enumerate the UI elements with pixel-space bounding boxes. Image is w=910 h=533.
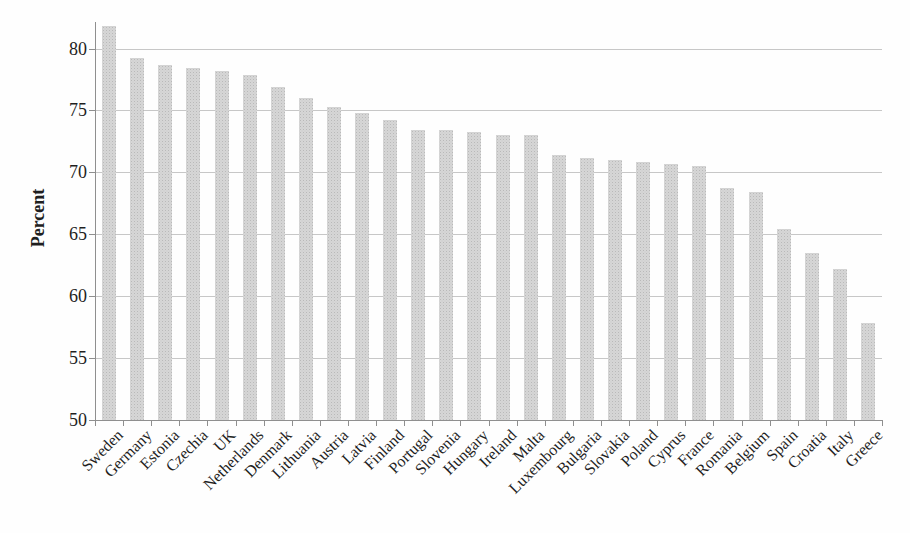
x-axis-tick xyxy=(629,421,630,426)
bar-malta xyxy=(524,135,538,420)
bar-france xyxy=(692,166,706,420)
x-axis-tick xyxy=(517,421,518,426)
bar-cyprus xyxy=(664,164,678,420)
bar-latvia xyxy=(355,113,369,420)
gridline-60 xyxy=(95,296,882,297)
bar-chart-figure: Percent 50556065707580SwedenGermanyEston… xyxy=(0,0,910,533)
x-axis-tick xyxy=(348,421,349,426)
x-axis-tick xyxy=(545,421,546,426)
x-axis-tick xyxy=(601,421,602,426)
bar-poland xyxy=(636,162,650,420)
y-axis-line xyxy=(95,22,96,421)
x-axis-tick xyxy=(882,421,883,426)
y-axis-title: Percent xyxy=(28,189,49,248)
y-tick-label-60: 60 xyxy=(47,286,87,306)
bar-ireland xyxy=(496,135,510,420)
x-axis-tick xyxy=(460,421,461,426)
bar-austria xyxy=(327,107,341,420)
x-axis-tick xyxy=(264,421,265,426)
bar-croatia xyxy=(805,253,819,420)
gridline-75 xyxy=(95,110,882,111)
x-axis-tick xyxy=(123,421,124,426)
gridline-55 xyxy=(95,358,882,359)
x-axis-tick xyxy=(573,421,574,426)
gridline-70 xyxy=(95,172,882,173)
bar-portugal xyxy=(411,130,425,420)
bar-spain xyxy=(777,229,791,420)
bar-finland xyxy=(383,120,397,420)
x-axis-tick xyxy=(207,421,208,426)
x-axis-tick xyxy=(151,421,152,426)
y-tick-label-65: 65 xyxy=(47,224,87,244)
x-axis-tick xyxy=(95,421,96,426)
x-axis-tick xyxy=(854,421,855,426)
bar-romania xyxy=(720,188,734,420)
x-axis-tick xyxy=(798,421,799,426)
x-axis-tick xyxy=(320,421,321,426)
bar-uk xyxy=(215,71,229,420)
x-axis-tick xyxy=(376,421,377,426)
x-axis-tick xyxy=(236,421,237,426)
x-axis-tick xyxy=(685,421,686,426)
y-tick-label-80: 80 xyxy=(47,39,87,59)
bar-belgium xyxy=(749,192,763,420)
gridline-80 xyxy=(95,49,882,50)
y-tick-label-55: 55 xyxy=(47,348,87,368)
x-axis-tick xyxy=(292,421,293,426)
x-axis-tick xyxy=(489,421,490,426)
bar-bulgaria xyxy=(580,158,594,421)
bar-denmark xyxy=(271,87,285,420)
bar-slovakia xyxy=(608,160,622,420)
bar-sweden xyxy=(102,26,116,420)
bar-luxembourg xyxy=(552,155,566,420)
x-axis-tick xyxy=(404,421,405,426)
y-tick-label-75: 75 xyxy=(47,100,87,120)
x-axis-tick xyxy=(657,421,658,426)
gridline-65 xyxy=(95,234,882,235)
x-axis-tick xyxy=(713,421,714,426)
bar-netherlands xyxy=(243,75,257,421)
x-axis-tick xyxy=(179,421,180,426)
y-tick-label-70: 70 xyxy=(47,162,87,182)
bar-germany xyxy=(130,58,144,420)
x-axis-tick xyxy=(826,421,827,426)
bar-estonia xyxy=(158,65,172,420)
bar-hungary xyxy=(467,132,481,421)
bar-italy xyxy=(833,269,847,420)
y-tick-label-50: 50 xyxy=(47,410,87,430)
x-axis-tick xyxy=(432,421,433,426)
bar-czechia xyxy=(186,68,200,420)
bar-slovenia xyxy=(439,130,453,420)
bar-lithuania xyxy=(299,98,313,420)
x-axis-tick xyxy=(742,421,743,426)
bar-greece xyxy=(861,323,875,420)
x-axis-tick xyxy=(770,421,771,426)
